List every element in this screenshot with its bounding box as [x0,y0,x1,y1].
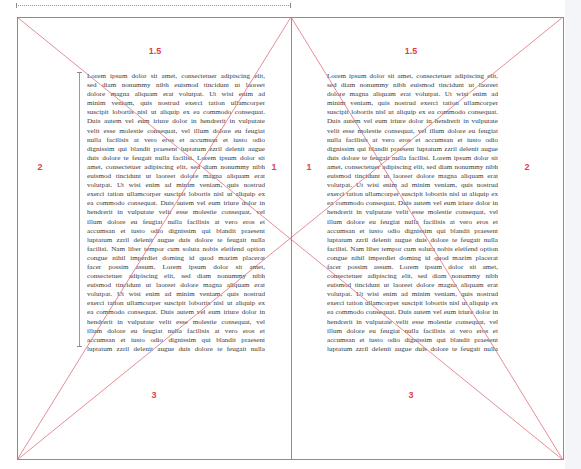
left-outer-margin-label: 2 [37,162,42,172]
body-text-line: luptatum zzril delenit augue duis dolore… [87,236,265,245]
measure-ruler [16,5,291,8]
body-text-line: minim veniam, quis nostrud exerci tation… [87,99,265,108]
body-text-line: illum dolore eu feugiat nulla facilisis … [87,218,265,227]
body-text-line: euismod tincidunt ut laoreet dolore magn… [327,172,498,181]
body-text-line: dolore magna aliquam erat volutpat. Ut w… [327,90,498,99]
body-text-line: hendrerit in vulputate velit esse molest… [327,208,498,217]
left-inner-margin-label: 1 [271,162,276,172]
body-text-line: congue nihil imperdiet doming id quod ma… [327,254,498,263]
body-text-line: accumsan et iusto odio dignissim qui bla… [87,227,265,236]
body-text-line: suscipit lobortis nisl ut aliquip ex ea … [87,108,265,117]
body-text-line: ea commodo consequat. Duis autem vel eum… [327,308,498,317]
body-text-line: hendrerit in vulputate velit esse molest… [327,318,498,327]
body-text-line: Duis autem vel eum iriure dolor in hendr… [87,117,265,126]
ruler-tick-start [16,3,17,8]
body-text-line: euismod tincidunt ut laoreet dolore magn… [327,281,498,290]
right-outer-margin-label: 2 [524,162,529,172]
body-text-line: amet, consectetuer adipiscing elit, sed … [87,163,265,172]
body-text-line: duis dolore te feugait nulla facilisi. L… [327,154,498,163]
body-text-line: duis dolore te feugait nulla facilisi. L… [87,154,265,163]
body-text-line: volutpat. Ut wisi enim ad minim veniam, … [327,181,498,190]
body-text-line: Duis autem vel eum iriure dolor in hendr… [327,117,498,126]
body-text-line: sed diam nonummy nibh euismod tincidunt … [87,81,265,90]
body-text-line: exerci tation ullamcorper suscipit lobor… [327,299,498,308]
body-text-line: hendrerit in vulputate velit esse molest… [87,318,265,327]
body-text-line: ea commodo consequat. Duis autem vel eum… [87,308,265,317]
body-text-line: exerci tation ullamcorper suscipit lobor… [327,190,498,199]
body-text-line: minim veniam, quis nostrud exerci tation… [327,99,498,108]
body-text-line: luptatum zzril delenit augue duis dolore… [327,236,498,245]
body-text-line: Lorem ipsum dolor sit amet, consectetuer… [87,72,265,81]
left-bottom-margin-label: 3 [151,390,156,400]
right-inner-margin-label: 1 [306,162,311,172]
window-edge-strip [565,0,581,469]
body-text-line: accumsan et iusto odio dignissim qui bla… [327,336,498,345]
body-text-line: illum dolore eu feugiat nulla facilisis … [87,327,265,336]
body-text-line: nulla facilisis at vero eros et accumsan… [327,136,498,145]
body-text-line: volutpat. Ut wisi enim ad minim veniam, … [87,181,265,190]
body-text-line: facilisi. Nam liber tempor cum soluta no… [327,245,498,254]
ruler-tick-end [290,3,291,8]
body-text-line: volutpat. Ut wisi enim ad minim veniam, … [327,290,498,299]
body-text-line: velit esse molestie consequat, vel illum… [327,127,498,136]
body-text-line: illum dolore eu feugiat nulla facilisis … [327,218,498,227]
body-text-line: sed diam nonummy nibh euismod tincidunt … [327,81,498,90]
body-text-line: congue nihil imperdiet doming id quod ma… [87,254,265,263]
body-text-line: consectetuer adipiscing elit, sed diam n… [87,272,265,281]
body-text-line: luptatum zzril delenit augue duis dolore… [327,345,498,354]
body-text-line: consectetuer adipiscing elit, sed diam n… [327,272,498,281]
body-text-line: facer possim assum. Lorem ipsum dolor si… [327,263,498,272]
body-text-line: dignissim qui blandit praesent luptatum … [87,145,265,154]
body-text-line: facilisi. Nam liber tempor cum soluta no… [87,245,265,254]
body-text-line: luptatum zzril delenit augue duis dolore… [87,345,265,354]
right-bottom-margin-label: 3 [408,390,413,400]
body-text-line: ea commodo consequat. Duis autem vel eum… [87,199,265,208]
body-text-line: dignissim qui blandit praesent luptatum … [327,145,498,154]
left-text-block: Lorem ipsum dolor sit amet, consectetuer… [87,72,265,354]
body-text-line: facer possim assum. Lorem ipsum dolor si… [87,263,265,272]
body-text-line: exerci tation ullamcorper suscipit lobor… [87,190,265,199]
body-text-line: exerci tation ullamcorper suscipit lobor… [87,299,265,308]
left-top-margin-label: 1.5 [149,46,162,56]
body-text-line: ea commodo consequat. Duis autem vel eum… [327,199,498,208]
body-text-line: accumsan et iusto odio dignissim qui bla… [327,227,498,236]
body-text-line: nulla facilisis at vero eros et accumsan… [87,136,265,145]
right-text-block: Lorem ipsum dolor sit amet, consectetuer… [327,72,498,354]
body-text-line: accumsan et iusto odio dignissim qui bla… [87,336,265,345]
body-text-line: euismod tincidunt ut laoreet dolore magn… [87,281,265,290]
body-text-line: illum dolore eu feugiat nulla facilisis … [327,327,498,336]
body-text-line: suscipit lobortis nisl ut aliquip ex ea … [327,108,498,117]
body-text-line: volutpat. Ut wisi enim ad minim veniam, … [87,290,265,299]
body-text-line: euismod tincidunt ut laoreet dolore magn… [87,172,265,181]
body-text-line: hendrerit in vulputate velit esse molest… [87,208,265,217]
body-text-line: dolore magna aliquam erat volutpat. Ut w… [87,90,265,99]
text-height-bracket [79,72,80,347]
body-text-line: amet, consectetuer adipiscing elit, sed … [327,163,498,172]
body-text-line: velit esse molestie consequat, vel illum… [87,127,265,136]
body-text-line: Lorem ipsum dolor sit amet, consectetuer… [327,72,498,81]
right-top-margin-label: 1.5 [405,46,418,56]
